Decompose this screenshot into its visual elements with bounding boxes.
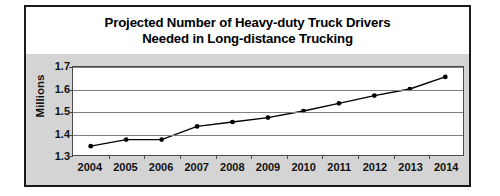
x-tick-label: 2009 bbox=[256, 161, 280, 173]
series-line-chart bbox=[73, 67, 463, 155]
x-tick-mark bbox=[322, 155, 323, 159]
chart-figure: Projected Number of Heavy-duty Truck Dri… bbox=[24, 5, 471, 187]
data-point-marker bbox=[443, 75, 448, 80]
data-point-marker bbox=[337, 101, 342, 106]
x-tick-mark bbox=[216, 155, 217, 159]
x-tick-mark bbox=[180, 155, 181, 159]
y-tick-mark bbox=[69, 90, 73, 91]
gridline bbox=[73, 90, 463, 91]
data-point-marker bbox=[195, 124, 200, 129]
x-tick-label: 2013 bbox=[398, 161, 422, 173]
x-tick-label: 2007 bbox=[184, 161, 208, 173]
data-point-marker bbox=[230, 120, 235, 125]
x-tick-mark bbox=[358, 155, 359, 159]
y-tick-mark bbox=[69, 112, 73, 113]
x-tick-label: 2008 bbox=[220, 161, 244, 173]
x-axis-tick-labels: 2004200520062007200820092010201120122013… bbox=[72, 161, 464, 177]
plot-inner bbox=[73, 67, 463, 155]
gridline bbox=[73, 135, 463, 136]
x-tick-mark bbox=[251, 155, 252, 159]
x-tick-label: 2012 bbox=[363, 161, 387, 173]
x-tick-label: 2011 bbox=[327, 161, 351, 173]
y-axis-tick-labels: 1.71.61.51.41.3 bbox=[48, 66, 70, 156]
y-tick-label: 1.7 bbox=[55, 61, 70, 72]
chart-title-line-2: Needed in Long-distance Trucking bbox=[142, 31, 353, 47]
chart-title-line-1: Projected Number of Heavy-duty Truck Dri… bbox=[105, 15, 391, 31]
data-point-marker bbox=[124, 137, 129, 142]
y-tick-label: 1.3 bbox=[55, 151, 70, 162]
x-tick-mark bbox=[394, 155, 395, 159]
x-tick-label: 2010 bbox=[291, 161, 315, 173]
x-tick-mark bbox=[429, 155, 430, 159]
x-tick-label: 2005 bbox=[113, 161, 137, 173]
chart-title: Projected Number of Heavy-duty Truck Dri… bbox=[26, 7, 469, 54]
y-tick-label: 1.6 bbox=[55, 83, 70, 94]
x-tick-mark bbox=[287, 155, 288, 159]
data-point-marker bbox=[266, 115, 271, 120]
y-tick-mark bbox=[69, 135, 73, 136]
data-point-marker bbox=[159, 137, 164, 142]
x-tick-label: 2006 bbox=[149, 161, 173, 173]
x-tick-label: 2014 bbox=[434, 161, 458, 173]
plot-area bbox=[72, 66, 464, 156]
data-point-marker bbox=[372, 93, 377, 98]
gridline bbox=[73, 67, 463, 68]
x-tick-label: 2004 bbox=[78, 161, 102, 173]
y-tick-label: 1.5 bbox=[55, 106, 70, 117]
y-tick-mark bbox=[69, 156, 73, 157]
x-tick-mark bbox=[144, 155, 145, 159]
y-tick-label: 1.4 bbox=[55, 128, 70, 139]
y-axis-title: Millions bbox=[34, 64, 46, 128]
gridline bbox=[73, 112, 463, 113]
chart-canvas: Millions 1.71.61.51.41.3 200420052006200… bbox=[26, 54, 469, 185]
data-point-marker bbox=[88, 144, 93, 149]
x-tick-mark bbox=[109, 155, 110, 159]
y-tick-mark bbox=[69, 67, 73, 68]
